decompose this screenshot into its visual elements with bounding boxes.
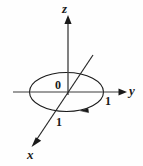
z-axis-label: z (62, 2, 67, 15)
figure-container: z y x 0 1 1 (0, 0, 143, 166)
y-axis-label: y (129, 84, 135, 97)
y-axis-unit-label: 1 (105, 95, 111, 107)
origin-label: 0 (55, 79, 61, 91)
x-axis-label: x (27, 148, 34, 161)
z-axis (64, 15, 71, 95)
axes-diagram-svg (0, 0, 143, 166)
x-axis-arrowhead-icon (32, 137, 42, 147)
x-axis (32, 55, 94, 147)
y-axis-arrowhead-icon (119, 89, 128, 96)
z-axis-arrowhead-icon (64, 15, 71, 24)
x-axis-unit-label: 1 (56, 116, 62, 128)
